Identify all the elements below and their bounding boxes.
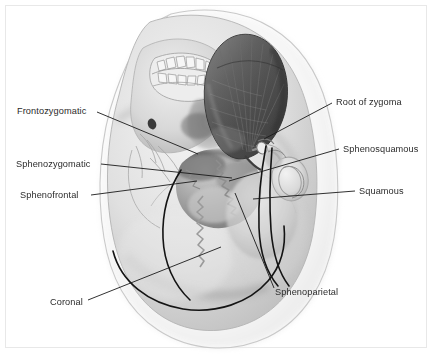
label-sphenosquamous: Sphenosquamous bbox=[343, 144, 418, 155]
label-sphenoparietal: Sphenoparietal bbox=[275, 287, 338, 298]
label-coronal: Coronal bbox=[50, 297, 83, 308]
label-squamous: Squamous bbox=[359, 186, 404, 197]
label-frontozygomatic: Frontozygomatic bbox=[17, 106, 86, 117]
figure-root: Frontozygomatic Sphenozygomatic Sphenofr… bbox=[0, 0, 433, 354]
label-sphenofrontal: Sphenofrontal bbox=[20, 190, 79, 201]
label-root-of-zygoma: Root of zygoma bbox=[336, 97, 402, 108]
label-sphenozygomatic: Sphenozygomatic bbox=[16, 159, 91, 170]
